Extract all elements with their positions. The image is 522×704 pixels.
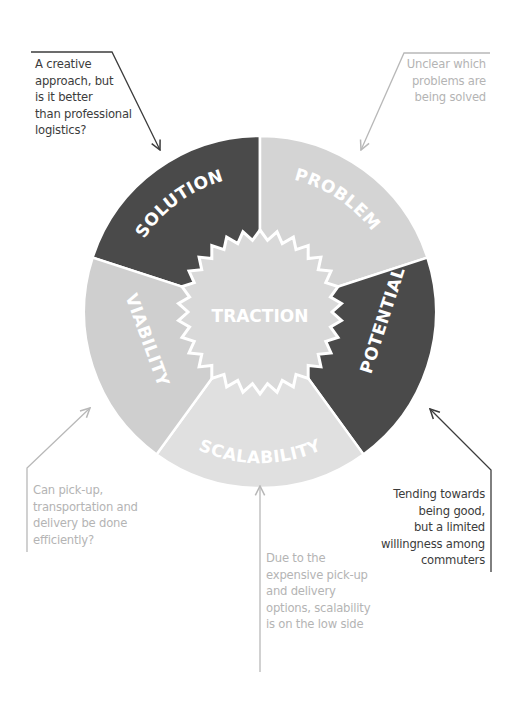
- annotation-problem: Unclear which problems are being solved: [407, 56, 486, 106]
- annotation-viability: Can pick-up, transportation and delivery…: [33, 482, 138, 548]
- annotation-potential: Tending towards being good, but a limite…: [381, 486, 485, 569]
- annotation-scalability: Due to the expensive pick-up and deliver…: [266, 550, 370, 633]
- traction-wheel-diagram: SOLUTION PROBLEM POTENTIAL SCALABILITY V…: [0, 0, 522, 704]
- center-label-traction: TRACTION: [212, 306, 309, 326]
- annotation-solution: A creative approach, but is it better th…: [35, 56, 132, 139]
